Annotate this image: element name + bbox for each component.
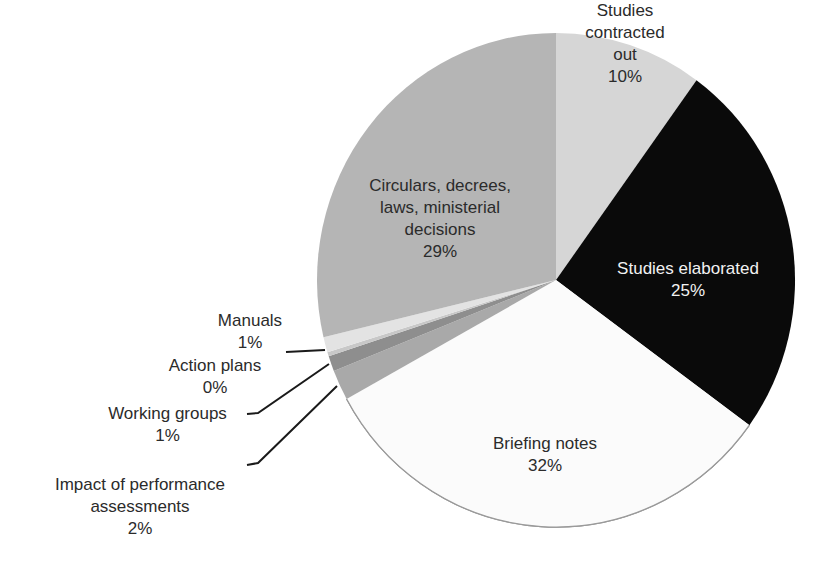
label-percent: 29% xyxy=(340,241,540,263)
label-working-groups: Working groups 1% xyxy=(90,403,245,447)
label-studies-contracted-out: Studies contracted out 10% xyxy=(558,0,692,88)
label-line: out xyxy=(558,44,692,66)
label-line: Circulars, decrees, xyxy=(340,175,540,197)
leader-line-manuals xyxy=(286,350,325,352)
label-line: decisions xyxy=(340,219,540,241)
label-manuals: Manuals 1% xyxy=(210,310,290,354)
label-line: Studies xyxy=(558,0,692,22)
label-studies-elaborated: Studies elaborated 25% xyxy=(596,258,780,302)
label-line: Briefing notes xyxy=(470,433,620,455)
label-percent: 2% xyxy=(20,518,260,540)
label-circulars-decrees-laws: Circulars, decrees, laws, ministerial de… xyxy=(340,175,540,263)
label-percent: 1% xyxy=(90,425,245,447)
label-line: Working groups xyxy=(90,403,245,425)
label-percent: 25% xyxy=(596,280,780,302)
label-line: Studies elaborated xyxy=(596,258,780,280)
label-line: assessments xyxy=(20,496,260,518)
label-percent: 0% xyxy=(150,377,280,399)
label-line: Action plans xyxy=(150,355,280,377)
label-line: Manuals xyxy=(210,310,290,332)
label-percent: 1% xyxy=(210,332,290,354)
label-percent: 32% xyxy=(470,455,620,477)
label-line: contracted xyxy=(558,22,692,44)
label-action-plans: Action plans 0% xyxy=(150,355,280,399)
label-line: Impact of performance xyxy=(20,474,260,496)
label-line: laws, ministerial xyxy=(340,197,540,219)
label-briefing-notes: Briefing notes 32% xyxy=(470,433,620,477)
label-percent: 10% xyxy=(558,66,692,88)
label-impact-of-performance-assessments: Impact of performance assessments 2% xyxy=(20,474,260,540)
